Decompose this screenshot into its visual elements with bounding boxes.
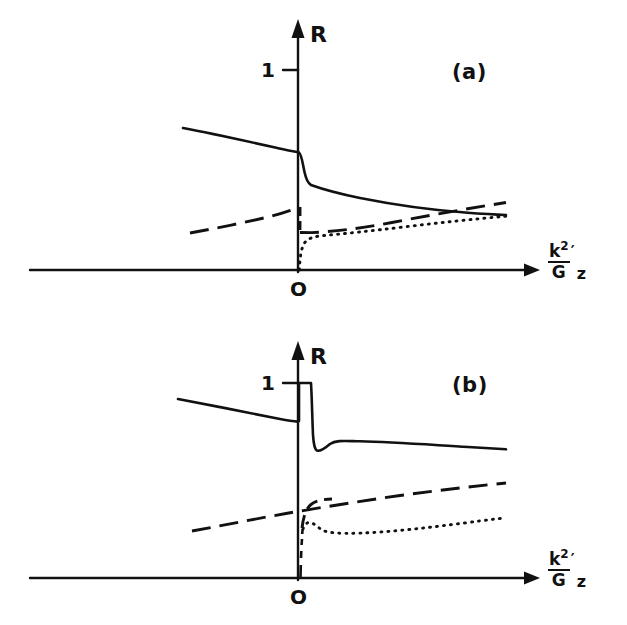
x-axis-a	[30, 264, 540, 277]
x-axis-label-numerator-a: k2	[548, 243, 570, 261]
x-axis-label-numerator-text-a: k	[549, 241, 560, 261]
panel-a: R 1 O k2 G ′ z (a)	[0, 0, 627, 312]
panel-label-a: (a)	[452, 60, 487, 84]
x-axis-label-subscript-a: z	[577, 266, 586, 282]
x-axis-label-exponent-a: 2	[560, 239, 568, 253]
x-axis-label-numerator-b: k2	[548, 551, 570, 569]
origin-label-b: O	[290, 585, 307, 609]
curve-riser-b	[301, 529, 303, 578]
x-axis-label-subscript-b: z	[577, 574, 586, 590]
y-axis-a	[292, 19, 305, 272]
curve-dotted-a	[300, 216, 507, 270]
x-axis-b	[30, 572, 540, 585]
y-axis-tick-label-b: 1	[261, 371, 275, 395]
x-axis-label-denominator-a: G	[551, 263, 567, 281]
panel-label-b: (b)	[452, 373, 488, 397]
figure-root: R 1 O k2 G ′ z (a)	[0, 0, 627, 625]
y-axis-label-b: R	[310, 344, 327, 369]
x-axis-label-prime-b: ′	[571, 553, 575, 568]
curve-dashed-a-left	[190, 208, 298, 233]
curve-dashed-a-right	[300, 203, 506, 233]
curve-solid-a	[183, 128, 506, 215]
origin-label-a: O	[290, 277, 307, 301]
x-axis-label-a: k2 G ′ z	[548, 243, 586, 281]
curve-dotted-b	[303, 518, 506, 534]
panel-b: R 1 O k2 G ′ z (b)	[0, 313, 627, 625]
x-axis-label-b: k2 G ′ z	[548, 551, 586, 589]
x-axis-label-denominator-b: G	[551, 571, 567, 589]
y-axis-tick-label-a: 1	[261, 58, 275, 82]
x-axis-label-fraction-b: k2 G	[548, 551, 570, 589]
x-axis-label-numerator-text-b: k	[549, 549, 560, 569]
x-axis-label-prime-a: ′	[571, 245, 575, 260]
y-axis-label-a: R	[310, 22, 327, 47]
curve-solid-b-left	[178, 399, 298, 422]
x-axis-label-exponent-b: 2	[560, 547, 568, 561]
x-axis-label-fraction-a: k2 G	[548, 243, 570, 281]
